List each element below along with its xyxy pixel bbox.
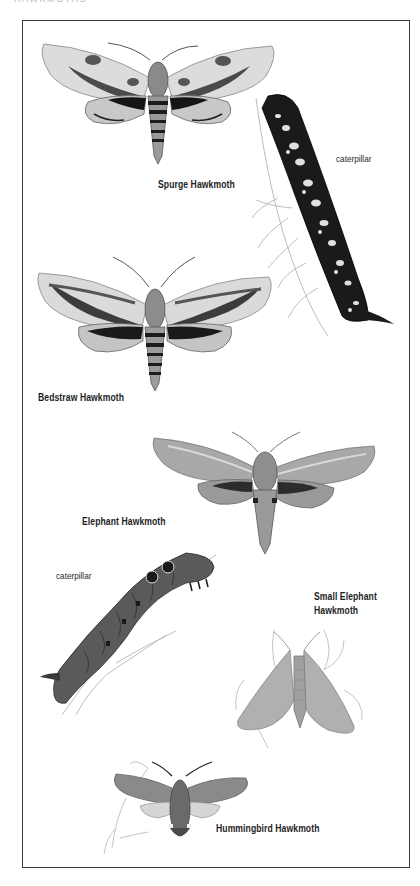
hummingbird-right-forewing bbox=[188, 778, 248, 804]
bedstraw-hawkmoth-illustration bbox=[35, 255, 275, 395]
hummingbird-right-hindwing bbox=[186, 802, 220, 818]
elephant-caterpillar-label: caterpillar bbox=[56, 570, 91, 581]
bedstraw-hawkmoth-label: Bedstraw Hawkmoth bbox=[38, 391, 124, 405]
small-elephant-left-wing bbox=[238, 650, 294, 730]
elephant-hawkmoth-illustration bbox=[148, 428, 378, 558]
hummingbird-hawkmoth-label: Hummingbird Hawkmoth bbox=[216, 822, 319, 836]
elephant-antennae bbox=[232, 432, 300, 452]
spurge-hawkmoth-label: Spurge Hawkmoth bbox=[158, 178, 235, 192]
small-elephant-hawkmoth-label-line1: Small Elephant bbox=[314, 590, 377, 604]
hummingbird-hawkmoth-illustration bbox=[96, 758, 266, 868]
spurge-hawkmoth-illustration bbox=[38, 38, 278, 168]
elephant-right-forewing bbox=[274, 446, 375, 485]
bedstraw-antennae bbox=[113, 257, 195, 287]
bedstraw-thorax bbox=[145, 289, 165, 329]
running-header: HAWKMOTHS bbox=[14, 0, 88, 4]
elephant-hawkmoth-label: Elephant Hawkmoth bbox=[82, 515, 166, 529]
spurge-caterpillar-label: caterpillar bbox=[336, 153, 371, 164]
small-elephant-body bbox=[294, 656, 306, 728]
small-elephant-hawkmoth-illustration bbox=[224, 630, 384, 750]
hummingbird-left-forewing bbox=[114, 774, 172, 804]
small-elephant-hawkmoth-label-line2: Hawkmoth bbox=[314, 604, 358, 618]
spurge-antennae bbox=[108, 43, 198, 60]
elephant-left-forewing bbox=[153, 438, 256, 482]
spurge-thorax bbox=[148, 62, 168, 98]
elephant-thorax bbox=[253, 452, 277, 492]
hummingbird-left-hindwing bbox=[140, 802, 174, 818]
